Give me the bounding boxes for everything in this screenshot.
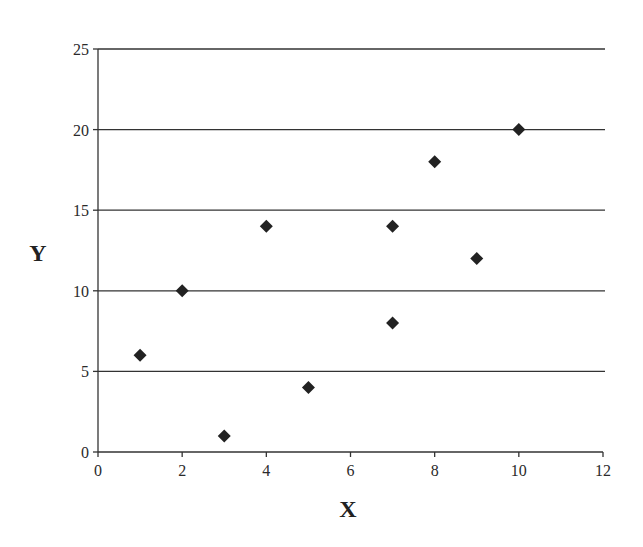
- y-axis-ticks: 0510152025: [73, 41, 98, 461]
- y-tick-label: 5: [81, 363, 89, 380]
- x-tick-label: 8: [431, 462, 439, 479]
- y-tick-label: 15: [73, 202, 89, 219]
- x-axis-title: X: [339, 496, 357, 522]
- x-tick-label: 2: [178, 462, 186, 479]
- y-tick-label: 10: [73, 283, 89, 300]
- y-tick-label: 20: [73, 122, 89, 139]
- x-axis-ticks: 024681012: [94, 452, 611, 479]
- axes: [98, 49, 603, 452]
- diamond-marker: [386, 317, 399, 330]
- x-tick-label: 10: [511, 462, 527, 479]
- diamond-marker: [470, 252, 483, 265]
- diamond-marker: [428, 155, 441, 168]
- y-tick-label: 25: [73, 41, 89, 58]
- diamond-marker: [302, 381, 315, 394]
- y-tick-label: 0: [81, 444, 89, 461]
- diamond-marker: [512, 123, 525, 136]
- diamond-marker: [176, 284, 189, 297]
- scatter-chart: 0510152025 024681012 Y X: [0, 0, 643, 547]
- diamond-marker: [260, 220, 273, 233]
- x-tick-label: 6: [347, 462, 355, 479]
- x-tick-label: 0: [94, 462, 102, 479]
- diamond-marker: [218, 429, 231, 442]
- x-tick-label: 12: [595, 462, 611, 479]
- y-axis-title: Y: [29, 240, 46, 266]
- diamond-marker: [386, 220, 399, 233]
- x-tick-label: 4: [262, 462, 270, 479]
- data-points: [134, 123, 526, 442]
- diamond-marker: [134, 349, 147, 362]
- gridlines: [98, 49, 605, 371]
